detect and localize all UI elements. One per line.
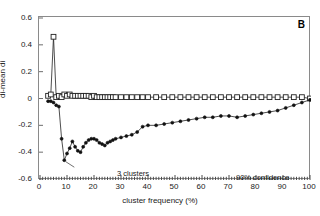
x-tick-label: 80 bbox=[251, 182, 260, 191]
data-point-marker bbox=[179, 120, 182, 123]
data-point-marker bbox=[283, 95, 288, 100]
x-tick-label: 90 bbox=[278, 182, 287, 191]
x-tick-label: 0 bbox=[37, 182, 41, 191]
data-point-marker bbox=[82, 145, 85, 148]
data-point-marker bbox=[95, 139, 98, 142]
data-point-marker bbox=[136, 131, 139, 134]
x-axis-title: cluster frequency (%) bbox=[0, 196, 320, 205]
data-point-marker bbox=[276, 109, 279, 112]
data-point-marker bbox=[51, 34, 56, 39]
data-point-marker bbox=[186, 95, 191, 100]
annotation-ninety-confidence: 90% confidence bbox=[236, 173, 289, 182]
data-point-marker bbox=[120, 136, 123, 139]
data-point-marker bbox=[162, 95, 167, 100]
data-point-marker bbox=[300, 101, 303, 104]
data-point-marker bbox=[275, 95, 280, 100]
data-point-marker bbox=[211, 116, 214, 119]
data-point-marker bbox=[309, 98, 312, 101]
annotation-three-clusters: 3 clusters bbox=[117, 169, 149, 178]
data-point-marker bbox=[260, 112, 263, 115]
data-point-marker bbox=[103, 144, 106, 147]
data-point-marker bbox=[219, 95, 224, 100]
data-point-marker bbox=[171, 121, 174, 124]
data-point-marker bbox=[129, 95, 134, 100]
data-point-marker bbox=[178, 95, 183, 100]
data-point-marker bbox=[203, 116, 206, 119]
data-point-marker bbox=[66, 152, 69, 155]
data-point-marker bbox=[244, 114, 247, 117]
data-point-marker bbox=[195, 117, 198, 120]
data-point-marker bbox=[154, 95, 159, 100]
data-point-marker bbox=[140, 95, 145, 100]
chart-figure: B 3 clusters 90% confidence 0.60.40.20-0… bbox=[0, 0, 320, 216]
data-point-marker bbox=[252, 113, 255, 116]
data-point-marker bbox=[57, 105, 60, 108]
data-point-marker bbox=[48, 92, 53, 97]
data-point-marker bbox=[125, 135, 128, 138]
x-tick-label: 100 bbox=[302, 182, 315, 191]
y-tick-label: -0.4 bbox=[0, 147, 32, 156]
data-point-marker bbox=[228, 114, 231, 117]
series-line-upper-bound bbox=[48, 37, 310, 99]
data-point-marker bbox=[79, 151, 82, 154]
data-point-marker bbox=[259, 95, 264, 100]
data-point-marker bbox=[300, 95, 305, 100]
x-tick-label: 40 bbox=[143, 182, 152, 191]
data-point-marker bbox=[202, 95, 207, 100]
data-point-marker bbox=[235, 95, 240, 100]
data-point-marker bbox=[219, 114, 222, 117]
data-point-marker bbox=[227, 95, 232, 100]
data-point-marker bbox=[68, 147, 71, 150]
data-point-marker bbox=[63, 159, 66, 162]
annotation-leader-line bbox=[66, 162, 75, 168]
y-tick-label: 0.6 bbox=[0, 13, 32, 22]
x-tick-label: 70 bbox=[224, 182, 233, 191]
x-tick-label: 30 bbox=[116, 182, 125, 191]
data-point-marker bbox=[52, 101, 55, 104]
data-point-marker bbox=[71, 140, 74, 143]
data-point-marker bbox=[187, 118, 190, 121]
data-point-marker bbox=[268, 110, 271, 113]
data-point-marker bbox=[114, 137, 117, 140]
data-point-marker bbox=[236, 116, 239, 119]
plot-svg bbox=[39, 17, 311, 180]
data-point-marker bbox=[284, 106, 287, 109]
data-point-marker bbox=[292, 104, 295, 107]
panel-label: B bbox=[298, 19, 305, 30]
data-point-marker bbox=[243, 95, 248, 100]
data-point-marker bbox=[141, 125, 144, 128]
data-point-marker bbox=[146, 95, 151, 100]
data-point-marker bbox=[130, 133, 133, 136]
data-point-marker bbox=[119, 95, 124, 100]
data-point-marker bbox=[135, 95, 140, 100]
data-point-marker bbox=[113, 95, 118, 100]
data-point-marker bbox=[124, 95, 129, 100]
x-tick-label: 20 bbox=[89, 182, 98, 191]
data-point-marker bbox=[291, 95, 296, 100]
data-point-marker bbox=[170, 95, 175, 100]
x-tick-label: 60 bbox=[197, 182, 206, 191]
data-point-marker bbox=[155, 124, 158, 127]
data-point-marker bbox=[163, 122, 166, 125]
data-point-marker bbox=[194, 95, 199, 100]
data-point-marker bbox=[84, 141, 87, 144]
x-tick-label: 50 bbox=[170, 182, 179, 191]
y-tick-label: 0.4 bbox=[0, 39, 32, 48]
data-point-marker bbox=[60, 137, 63, 140]
y-axis-title: di-mean di bbox=[0, 61, 7, 98]
data-point-marker bbox=[74, 145, 77, 148]
data-point-marker bbox=[251, 95, 256, 100]
x-tick-label: 10 bbox=[62, 182, 71, 191]
data-point-marker bbox=[210, 95, 215, 100]
series-line-lower-bound bbox=[48, 100, 310, 160]
data-point-marker bbox=[147, 124, 150, 127]
y-tick-label: -0.2 bbox=[0, 120, 32, 129]
plot-area: B 3 clusters 90% confidence bbox=[38, 16, 310, 179]
data-point-marker bbox=[267, 95, 272, 100]
y-tick-label: -0.6 bbox=[0, 174, 32, 183]
